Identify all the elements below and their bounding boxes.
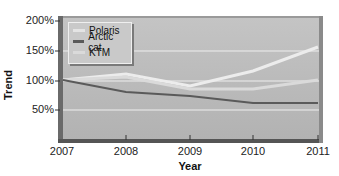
y-axis-title: Trend	[2, 70, 14, 100]
x-tick-label: 2011	[306, 145, 330, 157]
y-tick-label: 50%	[32, 103, 54, 115]
x-tick-label: 2010	[241, 145, 265, 157]
x-tick-label: 2007	[50, 145, 74, 157]
left-wall	[58, 16, 63, 143]
legend-swatch-icon	[73, 40, 84, 43]
legend-item-arctic-cat: Arctic cat	[73, 36, 127, 47]
y-tick-label: 150%	[26, 44, 54, 56]
x-tick-label: 2008	[114, 145, 138, 157]
legend-label: KTM	[89, 47, 110, 58]
x-tick-label: 2009	[178, 145, 202, 157]
right-wall	[319, 16, 323, 143]
legend-swatch-icon	[73, 29, 85, 32]
x-axis-title: Year	[178, 160, 201, 172]
y-tick-label: 100%	[26, 74, 54, 86]
legend-swatch-icon	[73, 51, 85, 54]
legend: Polaris Arctic cat KTM	[68, 22, 132, 64]
y-tick-label: 200%	[26, 14, 54, 26]
